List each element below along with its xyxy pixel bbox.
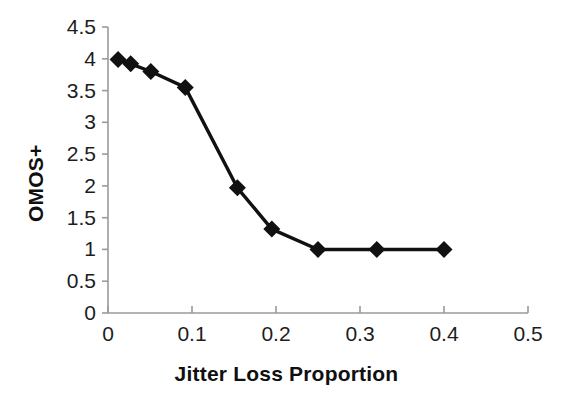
axis-spines <box>108 27 528 313</box>
data-point <box>368 241 385 258</box>
data-point <box>177 79 194 96</box>
x-tick-label: 0.5 <box>513 322 542 346</box>
x-tick-label: 0.1 <box>177 322 206 346</box>
x-axis-title: Jitter Loss Proportion <box>0 362 573 386</box>
x-tick-label: 0.3 <box>345 322 374 346</box>
chart-figure: 00.511.522.533.544.5 00.10.20.30.40.5 OM… <box>0 0 573 409</box>
y-tick-label: 3.5 <box>40 79 96 103</box>
data-series-markers <box>110 51 453 258</box>
y-tick-label: 0 <box>40 301 96 325</box>
data-point <box>436 241 453 258</box>
y-tick-label: 0.5 <box>40 269 96 293</box>
data-point <box>142 63 159 80</box>
x-tick-label: 0 <box>102 322 114 346</box>
x-tick-label: 0.2 <box>261 322 290 346</box>
y-tick-label: 4 <box>40 47 96 71</box>
x-tick-label: 0.4 <box>429 322 458 346</box>
y-axis-title: OMOS+ <box>16 108 56 258</box>
y-tick-label: 4.5 <box>40 15 96 39</box>
y-axis-ticks <box>102 27 108 313</box>
x-axis-ticks <box>108 306 528 313</box>
data-point <box>310 241 327 258</box>
data-series-line <box>118 59 444 249</box>
